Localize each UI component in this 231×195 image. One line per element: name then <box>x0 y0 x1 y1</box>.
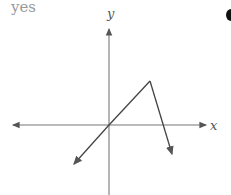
function-graph <box>0 0 231 195</box>
x-axis-label: x <box>210 118 217 133</box>
curve-left-ray <box>74 125 109 164</box>
y-axis-label: y <box>107 6 114 21</box>
curve-rising-segment <box>109 81 150 125</box>
curve-right-ray <box>150 81 172 154</box>
